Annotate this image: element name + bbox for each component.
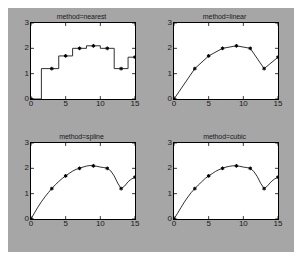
x-axis-tick-label: 15 [274, 220, 283, 228]
y-axis-tick-label: 3 [19, 139, 29, 147]
data-point-marker [276, 55, 278, 59]
subplot-title: method=nearest [12, 12, 151, 21]
plot-area [174, 23, 278, 99]
y-axis-tick-label: 2 [19, 164, 29, 172]
subplot-title: method=linear [155, 12, 294, 21]
x-axis-tick-label: 15 [274, 100, 283, 108]
y-axis-tick-label: 1 [162, 70, 172, 78]
x-axis-tick-label: 5 [206, 100, 210, 108]
y-axis-tick-label: 0 [162, 95, 172, 103]
y-axis-tick-label: 1 [19, 70, 29, 78]
subplot-linear: method=linear 0123051015 [155, 12, 294, 130]
x-axis-tick-label: 0 [29, 220, 33, 228]
plot-area [174, 143, 278, 219]
x-axis-tick-label: 10 [239, 100, 248, 108]
y-axis-tick-label: 2 [19, 44, 29, 52]
x-axis-tick-label: 5 [206, 220, 210, 228]
y-axis-tick-label: 1 [19, 190, 29, 198]
y-axis-tick-label: 0 [19, 215, 29, 223]
data-point-marker [133, 175, 135, 179]
y-axis-tick-label: 2 [162, 44, 172, 52]
y-axis-tick-label: 0 [162, 215, 172, 223]
y-axis-tick-label: 3 [19, 19, 29, 27]
subplot-title: method=cubic [155, 132, 294, 141]
subplot-title: method=spline [12, 132, 151, 141]
x-axis-tick-label: 5 [63, 100, 67, 108]
y-axis-tick-label: 3 [162, 19, 172, 27]
x-axis-tick-label: 10 [239, 220, 248, 228]
y-axis-tick-label: 3 [162, 139, 172, 147]
x-axis-tick-label: 10 [96, 100, 105, 108]
x-axis-tick-label: 15 [131, 100, 140, 108]
x-axis-tick-label: 0 [172, 220, 176, 228]
plot-axes: 0123051015 [173, 22, 279, 100]
subplot-cubic: method=cubic 0123051015 [155, 132, 294, 250]
figure-canvas: method=nearest 0123051015 method=linear … [8, 8, 294, 252]
subplot-nearest: method=nearest 0123051015 [12, 12, 151, 130]
plot-area [31, 23, 135, 99]
x-axis-tick-label: 15 [131, 220, 140, 228]
y-axis-tick-label: 1 [162, 190, 172, 198]
plot-area [31, 143, 135, 219]
plot-axes: 0123051015 [30, 142, 136, 220]
y-axis-tick-label: 2 [162, 164, 172, 172]
x-axis-tick-label: 5 [63, 220, 67, 228]
x-axis-tick-label: 0 [29, 100, 33, 108]
x-axis-tick-label: 10 [96, 220, 105, 228]
plot-axes: 0123051015 [30, 22, 136, 100]
data-point-marker [276, 175, 278, 179]
plot-axes: 0123051015 [173, 142, 279, 220]
subplot-spline: method=spline 0123051015 [12, 132, 151, 250]
x-axis-tick-label: 0 [172, 100, 176, 108]
y-axis-tick-label: 0 [19, 95, 29, 103]
